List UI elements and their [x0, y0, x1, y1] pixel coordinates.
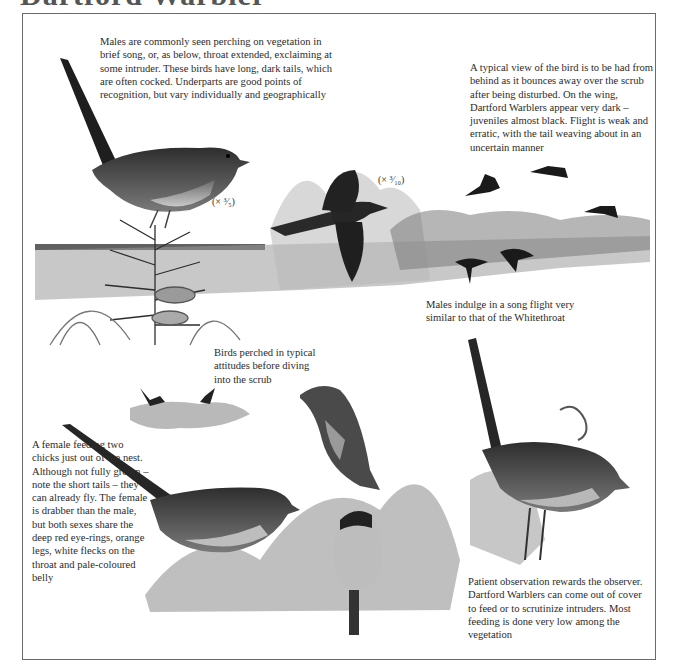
caption-patient-observation: Patient observation rewards the observer… [468, 575, 648, 641]
male-perched-bracken [468, 338, 630, 565]
caption-typical-view: A typical view of the bird is to be had … [470, 61, 655, 154]
caption-perched-attitudes: Birds perched in typical attitudes befor… [214, 346, 324, 386]
caption-song-flight: Males indulge in a song flight very simi… [426, 298, 606, 325]
caption-female-feeding: A female feeding two chicks just out of … [32, 438, 152, 584]
caption-males-perching: Males are commonly seen perching on vege… [100, 35, 340, 101]
scale-label-flying: (× ³⁄₁₀) [378, 174, 404, 186]
small-perched-pair [130, 388, 250, 429]
scale-label-perched: (× ³⁄₅) [212, 196, 235, 208]
